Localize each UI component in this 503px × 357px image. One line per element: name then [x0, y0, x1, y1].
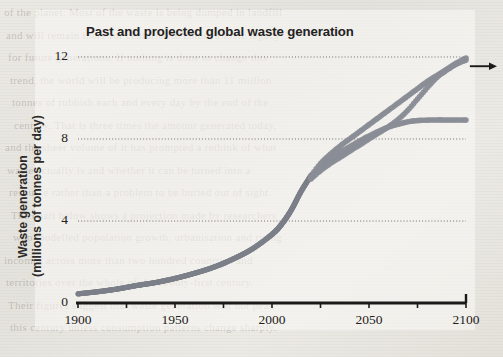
continues-upward-arrow: [470, 62, 497, 70]
chart-plot-area: [0, 0, 503, 357]
axis-lines: [76, 294, 466, 308]
scanned-page: of the planet. Most of the waste is bein…: [0, 0, 503, 357]
gridlines: [78, 57, 466, 221]
curve-projection-plateau: [308, 117, 469, 180]
curve-historical: [75, 173, 313, 296]
data-curves: [75, 55, 468, 296]
